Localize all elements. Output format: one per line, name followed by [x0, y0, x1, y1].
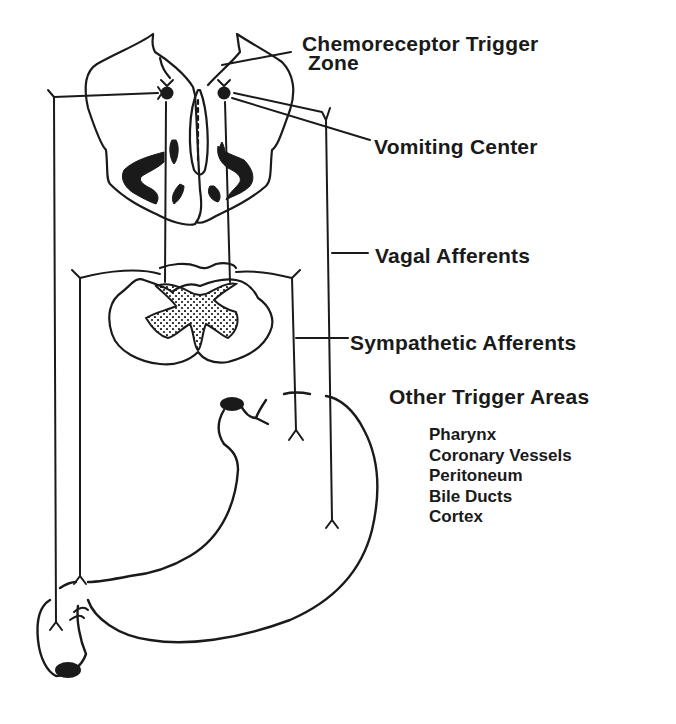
esophagus-opening	[221, 398, 243, 410]
duodenum-opening	[56, 663, 80, 677]
vomiting-center-nucleus-right	[218, 87, 231, 100]
ctz-label-line2: Zone	[308, 52, 359, 74]
trigger-area-item: Pharynx	[429, 425, 572, 446]
medulla-nuclei	[122, 140, 252, 204]
spinal-cord-gray-matter	[146, 284, 238, 350]
trigger-area-item: Coronary Vessels	[429, 446, 572, 467]
trigger-area-item: Cortex	[429, 507, 572, 528]
other-trigger-areas-heading: Other Trigger Areas	[389, 386, 589, 408]
trigger-area-item: Peritoneum	[429, 466, 572, 487]
emesis-pathway-diagram	[0, 0, 676, 724]
trigger-area-item: Bile Ducts	[429, 487, 572, 508]
other-trigger-areas-list: Pharynx Coronary Vessels Peritoneum Bile…	[429, 425, 572, 528]
sympathetic-afferents-label: Sympathetic Afferents	[350, 332, 576, 354]
vagal-afferents-label: Vagal Afferents	[375, 245, 530, 267]
stomach	[38, 393, 378, 677]
vomiting-center-label: Vomiting Center	[374, 136, 538, 158]
medulla-cross-section	[86, 34, 294, 225]
